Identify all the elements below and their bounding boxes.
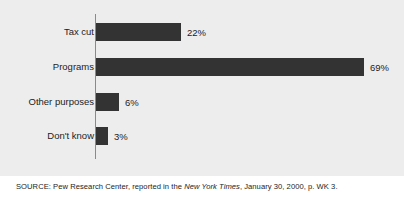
- source-publication: New York Times: [184, 182, 240, 191]
- source-prefix: SOURCE: Pew Research Center, reported in…: [16, 182, 184, 191]
- bar-other-purposes: [96, 93, 119, 111]
- bar-tax-cut: [96, 23, 181, 41]
- bar-programs: [96, 58, 364, 76]
- source-suffix: , January 30, 2000, p. WK 3.: [240, 182, 338, 191]
- category-label-tax-cut: Tax cut: [0, 25, 94, 39]
- bar-row: Programs 69%: [0, 58, 404, 76]
- category-label-programs: Programs: [0, 60, 94, 74]
- value-label-tax-cut: 22%: [187, 26, 206, 39]
- value-label-programs: 69%: [370, 61, 389, 74]
- bar-chart-figure: Tax cut 22% Programs 69% Other purposes …: [0, 0, 404, 205]
- bar-row: Tax cut 22%: [0, 23, 404, 41]
- value-label-other-purposes: 6%: [125, 96, 139, 109]
- bar-row: Don't know 3%: [0, 127, 404, 145]
- source-note: SOURCE: Pew Research Center, reported in…: [16, 181, 396, 192]
- bar-row: Other purposes 6%: [0, 93, 404, 111]
- plot-panel: Tax cut 22% Programs 69% Other purposes …: [0, 0, 404, 176]
- category-label-dont-know: Don't know: [0, 129, 94, 143]
- clipped-title-text: [60, 0, 360, 6]
- value-label-dont-know: 3%: [114, 130, 128, 143]
- category-label-other-purposes: Other purposes: [0, 95, 94, 109]
- bar-dont-know: [96, 127, 108, 145]
